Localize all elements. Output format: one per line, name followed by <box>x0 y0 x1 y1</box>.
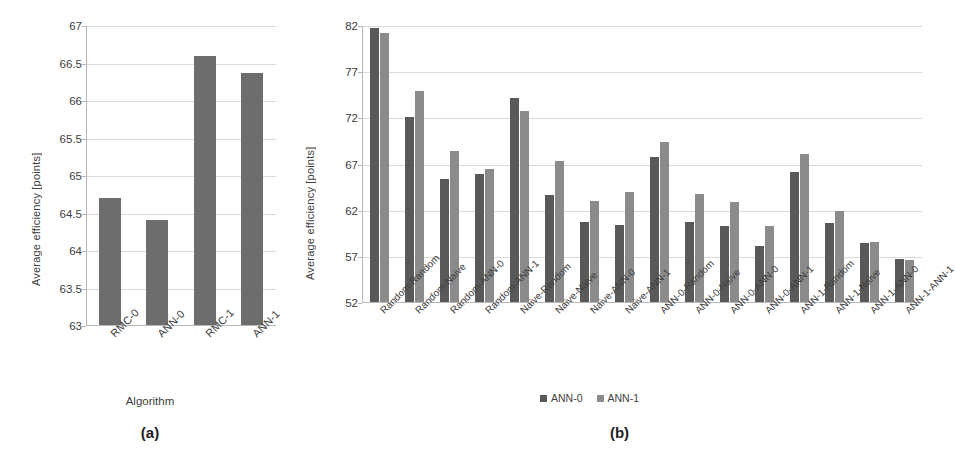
x-tick-slot: ANN-1-ANN-0 <box>852 306 887 307</box>
y-tick-label: 65.5 <box>60 133 82 145</box>
bar-group <box>229 26 277 326</box>
x-tick-slot: ANN-0-Naive <box>677 306 712 307</box>
x-tick-slot: ANN-1 <box>229 329 277 330</box>
y-tick-mark <box>358 72 362 73</box>
panel-b-caption: (b) <box>300 424 939 441</box>
y-tick-label: 52 <box>345 297 358 309</box>
y-tick-label: 67 <box>345 159 358 171</box>
panel-a-y-tick-labels: 6363.56464.56565.56666.567 <box>40 26 82 326</box>
bar-group <box>134 26 182 326</box>
y-tick-label: 67 <box>69 20 82 32</box>
x-tick-slot: ANN-0-ANN-1 <box>747 306 782 307</box>
panel-b-bars <box>362 26 922 303</box>
legend-swatch-icon <box>540 395 547 402</box>
y-tick-mark <box>82 26 86 27</box>
y-tick-mark <box>358 257 362 258</box>
chart-panel-b: Average efficiency [points] 525762677277… <box>300 0 939 468</box>
x-tick-slot: RMC-1 <box>181 329 229 330</box>
bar-group <box>607 26 642 303</box>
legend-label: ANN-1 <box>608 392 640 404</box>
x-tick-slot: RMC-0 <box>86 329 134 330</box>
x-tick-slot: Random-Random <box>362 306 397 307</box>
y-tick-label: 65 <box>69 170 82 182</box>
y-tick-mark <box>358 211 362 212</box>
y-tick-mark <box>358 118 362 119</box>
panel-a-plot-area <box>86 26 276 326</box>
bar <box>194 56 216 326</box>
y-tick-mark <box>82 251 86 252</box>
y-tick-mark <box>82 101 86 102</box>
x-tick-slot: ANN-1-Random <box>782 306 817 307</box>
y-tick-label: 57 <box>345 251 358 263</box>
bar-group <box>782 26 817 303</box>
y-tick-mark <box>358 303 362 304</box>
panel-b-plot-area <box>362 26 922 303</box>
panel-b-legend: ANN-0ANN-1 <box>540 392 639 404</box>
panel-a-caption: (a) <box>0 424 300 441</box>
x-tick-slot: Random-ANN-0 <box>432 306 467 307</box>
bar <box>99 198 121 326</box>
bar <box>380 33 389 303</box>
panel-a-y-axis-line <box>86 26 87 326</box>
y-tick-label: 63.5 <box>60 283 82 295</box>
bar-group <box>642 26 677 303</box>
bar-group <box>181 26 229 326</box>
chart-panel-a: Average efficiency [points] 6363.56464.5… <box>0 0 300 468</box>
x-tick-slot: Naive-ANN-1 <box>607 306 642 307</box>
bar-group <box>852 26 887 303</box>
y-tick-mark <box>82 64 86 65</box>
bar-group <box>747 26 782 303</box>
panel-b-y-tick-labels: 52576267727782 <box>316 26 358 303</box>
x-tick-slot: ANN-1-ANN-1 <box>887 306 922 307</box>
y-tick-mark <box>82 214 86 215</box>
legend-item[interactable]: ANN-0 <box>540 392 583 404</box>
x-tick-slot: Naive-Random <box>502 306 537 307</box>
y-tick-label: 64.5 <box>60 208 82 220</box>
y-tick-label: 62 <box>345 205 358 217</box>
x-tick-slot: ANN-1-Naive <box>817 306 852 307</box>
y-tick-label: 64 <box>69 245 82 257</box>
bar <box>695 194 704 303</box>
panel-a-bars <box>86 26 276 326</box>
legend-item[interactable]: ANN-1 <box>597 392 640 404</box>
x-tick-slot: Naive-Naive <box>537 306 572 307</box>
y-tick-mark <box>82 326 86 327</box>
y-tick-mark <box>82 289 86 290</box>
x-tick-slot: Naive-ANN-0 <box>572 306 607 307</box>
y-tick-label: 66.5 <box>60 58 82 70</box>
bar-group <box>362 26 397 303</box>
legend-label: ANN-0 <box>551 392 583 404</box>
x-tick-slot: Random-Naive <box>397 306 432 307</box>
x-tick-slot: Random-ANN-1 <box>467 306 502 307</box>
panel-b-y-axis-title: Average efficiency [points] <box>304 60 316 280</box>
y-tick-label: 82 <box>345 20 358 32</box>
y-tick-label: 77 <box>345 66 358 78</box>
legend-swatch-icon <box>597 395 604 402</box>
bar-group <box>887 26 922 303</box>
y-tick-label: 66 <box>69 95 82 107</box>
panel-b-x-tick-labels: Random-RandomRandom-NaiveRandom-ANN-0Ran… <box>362 306 922 307</box>
y-tick-label: 72 <box>345 112 358 124</box>
y-tick-label: 63 <box>69 320 82 332</box>
x-tick-slot: ANN-0-ANN-0 <box>712 306 747 307</box>
bar <box>625 192 634 303</box>
panel-a-x-tick-labels: RMC-0ANN-0RMC-1ANN-1 <box>86 329 276 330</box>
bar-group <box>572 26 607 303</box>
bar <box>370 28 379 303</box>
y-tick-mark <box>82 139 86 140</box>
bar-group <box>86 26 134 326</box>
bar <box>730 202 739 303</box>
panel-a-x-axis-title: Algorithm <box>0 395 300 407</box>
bar <box>146 220 168 327</box>
bar <box>835 211 844 303</box>
bar <box>590 201 599 303</box>
x-tick-slot: ANN-0 <box>134 329 182 330</box>
y-tick-mark <box>82 176 86 177</box>
x-tick-slot: ANN-0-Random <box>642 306 677 307</box>
panel-b-y-axis-line <box>362 26 363 303</box>
bar <box>241 73 263 326</box>
bar-group <box>712 26 747 303</box>
y-tick-mark <box>358 165 362 166</box>
y-tick-mark <box>358 26 362 27</box>
